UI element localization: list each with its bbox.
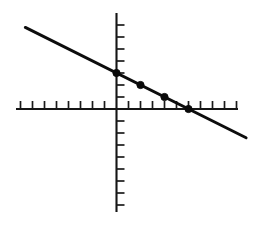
- graph-figure: [0, 0, 258, 225]
- coordinate-plane: [0, 0, 258, 225]
- data-point-marker: [185, 105, 192, 112]
- y-axis-ticks: [117, 25, 125, 205]
- plotted-line-group: [25, 27, 246, 137]
- data-point-marker: [137, 81, 144, 88]
- x-axis-ticks: [21, 101, 237, 109]
- plotted-line: [25, 27, 246, 137]
- axes-group: [16, 13, 238, 212]
- data-point-marker: [161, 93, 168, 100]
- data-point-marker: [113, 69, 120, 76]
